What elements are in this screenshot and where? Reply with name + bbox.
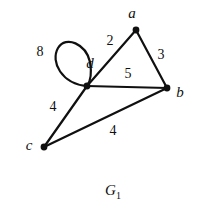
vertex-dot-c	[41, 144, 48, 151]
vertex-dot-d	[84, 83, 91, 90]
edge-weight-c-b: 4	[110, 124, 117, 138]
vertex-dot-b	[164, 85, 171, 92]
edge-d-b	[87, 86, 167, 88]
edge-c-b	[44, 88, 167, 147]
graph-figure: abcd 235448 G1	[0, 0, 200, 206]
edge-weight-d-c: 4	[50, 100, 57, 114]
edge-weight-a-d: 2	[107, 34, 114, 48]
vertex-label-b: b	[176, 85, 184, 100]
figure-caption-subscript: 1	[116, 190, 121, 201]
figure-caption: G1	[105, 183, 121, 201]
edge-weight-d-b: 5	[125, 67, 132, 81]
graph-canvas	[0, 0, 200, 206]
vertex-label-a: a	[128, 6, 136, 21]
vertex-label-c: c	[26, 138, 33, 153]
figure-caption-base: G	[105, 182, 116, 198]
vertex-dot-a	[133, 27, 140, 34]
loop-weight-d-d: 8	[37, 45, 44, 59]
edge-weight-a-b: 3	[158, 48, 165, 62]
edge-layer	[44, 30, 167, 147]
vertex-label-d: d	[86, 56, 94, 71]
